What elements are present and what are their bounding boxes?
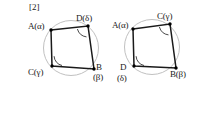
cyclic-quadrilateral-right: A(α) C(γ) B(β) D (δ) [0, 0, 199, 120]
vertex-label-b-right: B(β) [170, 69, 186, 79]
vertex-a-right [131, 27, 134, 30]
quadrilateral-right [133, 24, 176, 68]
angle-arc-c-right [159, 27, 168, 35]
geometry-figure-page: [2] A(α) D(δ) B (β) C(γ) [0, 0, 199, 120]
vertex-sublabel-d-right: (δ) [117, 73, 127, 83]
vertex-label-a-right: A(α) [112, 20, 128, 30]
angle-arc-d-right [136, 56, 144, 65]
vertex-d-right [132, 64, 135, 67]
vertex-label-c-right: C(γ) [157, 11, 172, 21]
vertex-c-right [168, 22, 171, 25]
vertex-label-d-right: D [120, 62, 126, 72]
